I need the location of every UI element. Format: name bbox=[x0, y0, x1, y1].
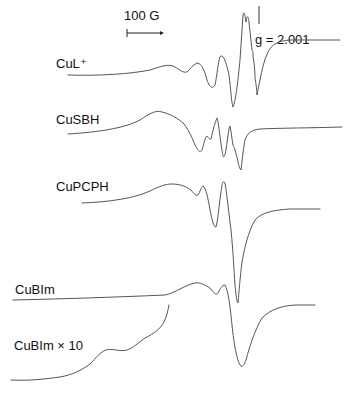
spectra-plot bbox=[0, 0, 350, 393]
trace-cul bbox=[68, 13, 340, 107]
epr-spectra-figure: 100 G g = 2.001 CuL⁺ CuSBH CuPCPH CuBIm … bbox=[0, 0, 350, 393]
trace-cusbh bbox=[68, 111, 342, 170]
trace-cubim-x10 bbox=[11, 305, 169, 380]
trace-cupcph bbox=[82, 182, 320, 303]
scale-bar-arrow bbox=[127, 29, 164, 37]
trace-cubim bbox=[13, 283, 315, 367]
